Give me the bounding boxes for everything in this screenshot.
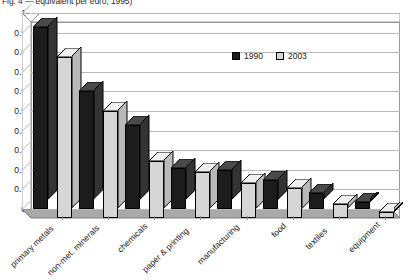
bar-group — [355, 22, 394, 218]
x-axis-label-chemicals: chemicals — [116, 221, 149, 254]
y-axis-tick-mark — [26, 111, 30, 112]
bar-front-face — [263, 180, 278, 209]
figure-caption: Fig. 4 — equivalent per euro, 1995) — [2, 0, 132, 7]
x-axis-tick-mark — [385, 216, 386, 220]
x-axis-label-equipment: equipment — [347, 220, 382, 254]
x-axis-label-manufacturing: manufacturing — [196, 222, 241, 266]
bar-front-face — [241, 183, 256, 218]
gridline — [31, 13, 400, 14]
bar-front-face — [57, 57, 72, 218]
x-axis-labels: primary metalsnon-met. mineralschemicals… — [31, 219, 406, 280]
bar-group — [309, 22, 348, 218]
x-axis-tick-mark — [154, 216, 155, 220]
x-axis-label-paper-printing: paper & printing — [141, 227, 190, 275]
x-axis-tick-mark — [62, 216, 63, 220]
bar-group — [33, 22, 72, 218]
bar-front-face — [355, 202, 370, 209]
x-axis-label-primary-metals: primary metals — [9, 224, 55, 269]
bar-chart: 00.10.20.30.40.50.60.70.80.91 19902003 p… — [0, 9, 406, 274]
y-axis-tick-mark — [26, 170, 30, 171]
bar-side-face — [370, 192, 380, 209]
bar-front-face — [195, 172, 210, 218]
x-axis-tick-mark — [247, 216, 248, 220]
plot-area — [31, 22, 400, 218]
bar-front-face — [379, 212, 394, 218]
bar-group — [79, 22, 118, 218]
y-axis-tick-mark — [26, 33, 30, 34]
bar-front-face — [149, 161, 164, 218]
y-axis-tick-mark — [26, 209, 30, 210]
y-axis-tick-mark — [26, 189, 30, 190]
bar-front-face — [287, 188, 302, 218]
legend-item-1990: 1990 — [232, 51, 263, 61]
x-axis-tick-mark — [200, 216, 201, 220]
chart-legend: 19902003 — [232, 51, 307, 61]
bar-front-face — [103, 111, 118, 218]
y-axis-tick-mark — [26, 150, 30, 151]
y-axis-tick-mark — [26, 52, 30, 53]
x-axis-label-food: food — [270, 221, 288, 239]
y-axis-tick-mark — [26, 13, 30, 14]
bar-front-face — [79, 91, 94, 209]
bar-group — [125, 22, 164, 218]
x-axis-label-textiles: textiles — [304, 226, 329, 251]
legend-item-2003: 2003 — [276, 51, 307, 61]
y-axis-tick-mark — [26, 72, 30, 73]
bar-front-face — [171, 168, 186, 209]
legend-swatch-icon — [276, 52, 284, 60]
bar-front-face — [33, 27, 48, 209]
bar-group — [171, 22, 210, 218]
x-axis-tick-mark — [108, 216, 109, 220]
y-axis-tick-mark — [26, 91, 30, 92]
bar-front-face — [333, 204, 348, 218]
bar-front-face — [217, 170, 232, 209]
bar-front-face — [309, 193, 324, 209]
x-axis-tick-mark — [293, 216, 294, 220]
x-axis-tick-mark — [339, 216, 340, 220]
legend-label: 2003 — [288, 51, 307, 61]
y-axis-tick-mark — [26, 131, 30, 132]
legend-swatch-icon — [232, 52, 240, 60]
bar-front-face — [125, 125, 140, 209]
legend-label: 1990 — [244, 51, 263, 61]
